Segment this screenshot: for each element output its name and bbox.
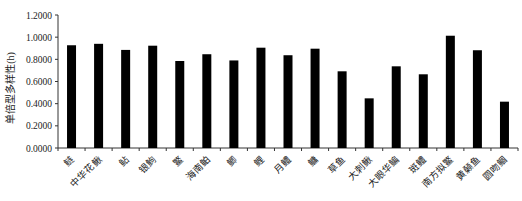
bars	[67, 36, 509, 148]
bar-17	[500, 102, 509, 148]
category-label: 圆吻鲴	[481, 154, 510, 183]
haplotype-diversity-bar-chart: 单倍型多样性(h) 0.00000.20000.40000.60000.8000…	[0, 0, 522, 201]
y-tick-label: 1.0000	[26, 33, 52, 43]
category-label: 月鳢	[271, 154, 293, 176]
category-label: 斑鳢	[407, 154, 429, 176]
bar-16	[473, 50, 482, 148]
bar-12	[365, 98, 374, 148]
bar-5	[175, 61, 184, 148]
bar-4	[148, 46, 157, 148]
bar-3	[121, 50, 130, 148]
category-label: 鲫	[224, 154, 239, 169]
category-labels: 鲢中华花鳅鲇银鮈鳘海南鲌鲫鲤月鳢鳙草鱼大刺鳅大眼华鳊斑鳢南方拟鳘黄颡鱼圆吻鲴	[62, 154, 510, 190]
y-tick-label: 1.2000	[26, 11, 52, 21]
category-label: 草鱼	[326, 154, 348, 176]
bar-15	[446, 36, 455, 148]
category-label: 鳙	[306, 154, 321, 169]
category-label: 海南鲌	[183, 154, 212, 183]
bar-13	[392, 66, 401, 148]
category-label: 鲇	[116, 154, 131, 169]
y-tick-label: 0.6000	[26, 77, 52, 87]
bar-7	[229, 60, 238, 148]
bar-6	[202, 54, 211, 148]
category-label: 鳘	[170, 154, 185, 169]
bar-8	[256, 48, 265, 148]
category-label: 银鮈	[136, 154, 158, 176]
y-tick-label: 0.0000	[26, 144, 52, 154]
y-tick-label: 0.2000	[26, 121, 52, 131]
y-axis-title: 单倍型多样性(h)	[4, 52, 17, 124]
bar-9	[284, 55, 293, 148]
bar-10	[311, 49, 320, 148]
y-tick-label: 0.4000	[26, 99, 52, 109]
bar-11	[338, 71, 347, 148]
x-axis	[58, 148, 518, 151]
bar-2	[94, 44, 103, 148]
y-axis-label: 单倍型多样性(h)	[4, 52, 17, 124]
category-label: 鲤	[252, 154, 267, 169]
category-label: 黄颡鱼	[454, 154, 483, 183]
y-tick-label: 0.8000	[26, 55, 52, 65]
bar-14	[419, 74, 428, 148]
category-label: 鲢	[62, 154, 77, 169]
y-axis: 0.00000.20000.40000.60000.80001.00001.20…	[26, 11, 58, 154]
bar-1	[67, 45, 76, 148]
